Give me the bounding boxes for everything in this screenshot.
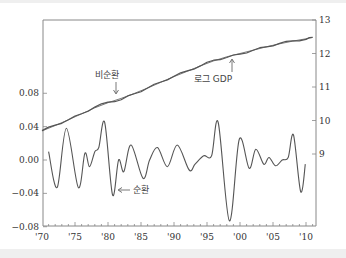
- series-log-gdp-line: [42, 37, 313, 130]
- series-lines: [42, 37, 313, 221]
- series-trend-line: [42, 37, 313, 130]
- x-tick-label: '80: [101, 232, 115, 242]
- right-tick-label: 13: [319, 15, 331, 25]
- annotation-log-gdp-label: 로그 GDP: [194, 74, 233, 84]
- x-tick-label: '00: [233, 232, 247, 242]
- chart: '70'75'80'85'90'95'00'05'100.080.040.00−…: [0, 0, 346, 258]
- annotation-trend-label: 비순환: [95, 69, 119, 80]
- right-tick-label: 10: [319, 116, 331, 126]
- left-tick-label: 0.08: [19, 88, 39, 98]
- x-tick-label: '90: [167, 232, 181, 242]
- x-tick-label: '10: [299, 232, 313, 242]
- left-tick-label: −0.08: [11, 222, 39, 232]
- series-cycle-line: [49, 121, 306, 221]
- plot-frame: [43, 20, 316, 226]
- annotation-cycle-label: 순환: [133, 184, 149, 195]
- x-tick-label: '05: [266, 232, 280, 242]
- x-tick-label: '85: [134, 232, 148, 242]
- left-tick-label: −0.04: [11, 188, 39, 198]
- x-tick-label: '70: [35, 232, 49, 242]
- right-tick-label: 11: [319, 82, 330, 92]
- x-tick-label: '95: [200, 232, 214, 242]
- right-tick-label: 12: [319, 49, 330, 59]
- left-tick-label: 0.00: [19, 155, 39, 165]
- right-tick-label: 9: [319, 149, 325, 159]
- x-tick-label: '75: [68, 232, 82, 242]
- left-tick-label: 0.04: [19, 122, 39, 132]
- axis-ticks: '70'75'80'85'90'95'00'05'100.080.040.00−…: [11, 15, 330, 242]
